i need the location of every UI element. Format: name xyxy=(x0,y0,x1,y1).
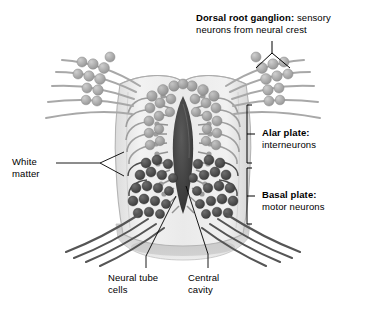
cropped-caption-strip xyxy=(0,0,366,9)
label-alar-plate: Alar plate: interneurons xyxy=(262,127,316,150)
basal-desc: motor neurons xyxy=(262,201,325,213)
cc-line2: cavity xyxy=(188,284,219,296)
drg-line2: neurons from neural crest xyxy=(196,24,331,36)
alar-desc: interneurons xyxy=(262,139,316,151)
label-dorsal-root-ganglion: Dorsal root ganglion: sensory neurons fr… xyxy=(196,12,331,35)
label-white-matter: White matter xyxy=(12,156,40,179)
white-matter-line1: White xyxy=(12,156,40,168)
drg-term: Dorsal root ganglion: xyxy=(196,12,294,23)
white-matter-line2: matter xyxy=(12,168,40,180)
neural-tube-illustration xyxy=(0,0,366,314)
alar-term: Alar plate: xyxy=(262,127,310,138)
figure-canvas: Dorsal root ganglion: sensory neurons fr… xyxy=(0,0,366,314)
dorsal-root-ganglion-left xyxy=(73,52,115,106)
drg-desc: sensory xyxy=(294,12,331,23)
label-central-cavity: Central cavity xyxy=(188,272,219,295)
basal-term: Basal plate: xyxy=(262,189,317,200)
ntc-line2: cells xyxy=(108,284,158,296)
cc-line1: Central xyxy=(188,272,219,284)
white-matter-leader xyxy=(56,152,124,176)
ntc-line1: Neural tube xyxy=(108,272,158,284)
label-basal-plate: Basal plate: motor neurons xyxy=(262,189,325,212)
dorsal-root-ganglion-right xyxy=(251,52,293,106)
label-neural-tube-cells: Neural tube cells xyxy=(108,272,158,295)
